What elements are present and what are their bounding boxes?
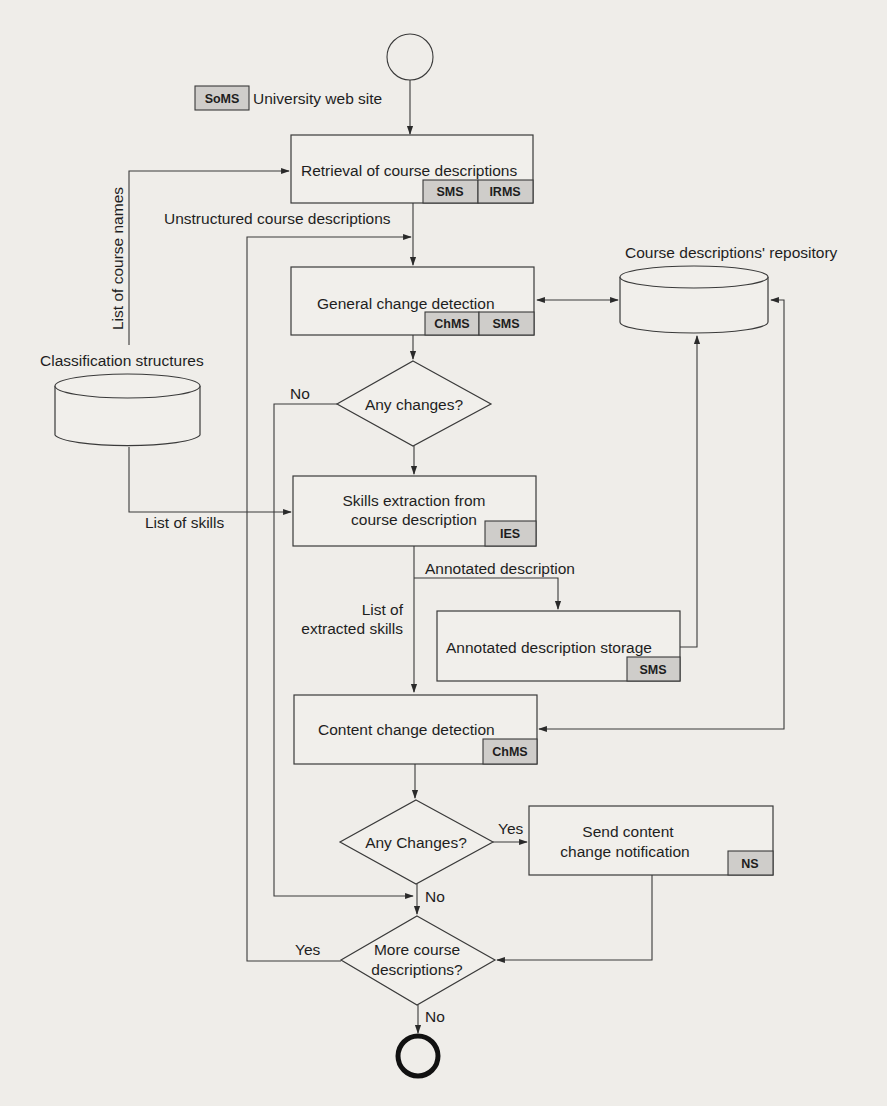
flowchart-canvas: SoMS University web site Retrieval of co…: [0, 0, 887, 1106]
process-notification: Send content change notification NS: [529, 806, 773, 875]
process-label: Annotated description storage: [446, 639, 652, 656]
edge-storage-to-repository: [680, 336, 697, 647]
decision-any-changes-1: Any changes?: [337, 361, 491, 446]
datastore-label: Course descriptions' repository: [625, 244, 838, 261]
start-node: [387, 34, 433, 80]
edge-label-more-yes: Yes: [295, 941, 321, 958]
process-label: General change detection: [317, 295, 495, 312]
datastore-label: Classification structures: [40, 352, 204, 369]
decision-label-line1: More course: [374, 941, 460, 958]
process-content-change: Content change detection ChMS: [294, 695, 537, 764]
edge-label-course-names: List of course names: [109, 187, 126, 330]
process-label: Retrieval of course descriptions: [301, 162, 517, 179]
decision-label-line2: descriptions?: [371, 961, 463, 978]
datastore-repository: Course descriptions' repository: [620, 244, 838, 333]
edge-label-yes: Yes: [498, 820, 524, 837]
source-tag: SoMS: [205, 92, 240, 106]
decision-label: Any changes?: [365, 396, 464, 413]
process-annotated-storage: Annotated description storage SMS: [437, 611, 680, 681]
edge-label-unstructured: Unstructured course descriptions: [164, 210, 391, 227]
edge-label-no: No: [425, 888, 445, 905]
edge-label-no: No: [290, 385, 310, 402]
tag-sms: SMS: [639, 663, 666, 677]
datastore-classification: Classification structures: [40, 352, 204, 446]
decision-label: Any Changes?: [365, 834, 467, 851]
edge-label-no: No: [425, 1008, 445, 1025]
process-label: Content change detection: [318, 721, 495, 738]
edge-decision3-no: No: [418, 1005, 445, 1033]
edge-decision2-yes: Yes: [493, 820, 527, 842]
process-label-line2: change notification: [560, 843, 689, 860]
edge-list-of-skills: List of skills: [129, 447, 291, 531]
edge-label-extracted-1: List of: [362, 601, 404, 618]
edge-course-names: List of course names: [109, 171, 289, 345]
edge-label-annotated: Annotated description: [425, 560, 575, 577]
tag-chms: ChMS: [434, 317, 469, 331]
tag-ns: NS: [741, 857, 758, 871]
decision-more-descriptions: More course descriptions?: [341, 916, 495, 1005]
edge-label-skills: List of skills: [145, 514, 224, 531]
end-node: [398, 1036, 438, 1076]
tag-sms: SMS: [492, 317, 519, 331]
process-label-line1: Send content: [582, 823, 674, 840]
process-label-line1: Skills extraction from: [343, 492, 486, 509]
decision-any-changes-2: Any Changes?: [340, 800, 493, 884]
tag-sms: SMS: [436, 185, 463, 199]
edge-label-extracted-2: extracted skills: [301, 620, 403, 637]
edge-decision2-no: No: [417, 884, 445, 914]
process-general-change: General change detection ChMS SMS: [291, 267, 534, 335]
process-skills-extraction: Skills extraction from course descriptio…: [293, 476, 536, 546]
tag-ies: IES: [500, 527, 520, 541]
process-retrieval: Retrieval of course descriptions SMS IRM…: [291, 135, 533, 203]
process-label-line2: course description: [351, 511, 477, 528]
source-university-website: SoMS University web site: [195, 86, 382, 110]
edge-notification-to-decision3: [497, 875, 652, 960]
tag-irms: IRMS: [489, 185, 520, 199]
source-label: University web site: [253, 90, 382, 107]
tag-chms: ChMS: [492, 745, 527, 759]
